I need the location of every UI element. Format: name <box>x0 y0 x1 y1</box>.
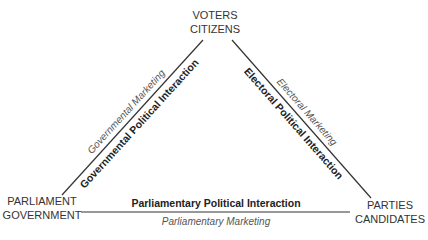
node-right-line2: CANDIDATES <box>355 213 425 225</box>
political-marketing-triangle-diagram: VOTERS CITIZENS PARLIAMENT GOVERNMENT PA… <box>0 0 428 240</box>
node-top-line1: VOTERS <box>192 9 237 21</box>
right-edge-interaction-label: Electoral Political Interaction <box>242 65 346 181</box>
bottom-edge-marketing-label: Parliamentary Marketing <box>162 216 271 227</box>
left-edge-interaction-label: Governmental Political Interaction <box>77 56 201 190</box>
node-top-line2: CITIZENS <box>190 23 240 35</box>
node-left-line2: GOVERNMENT <box>3 209 82 221</box>
node-right-line1: PARTIES <box>367 199 413 211</box>
bottom-edge-interaction-label: Parliamentary Political Interaction <box>131 197 300 209</box>
right-edge-line <box>232 40 371 198</box>
left-edge-line <box>62 40 203 195</box>
node-left-line1: PARLIAMENT <box>7 195 77 207</box>
